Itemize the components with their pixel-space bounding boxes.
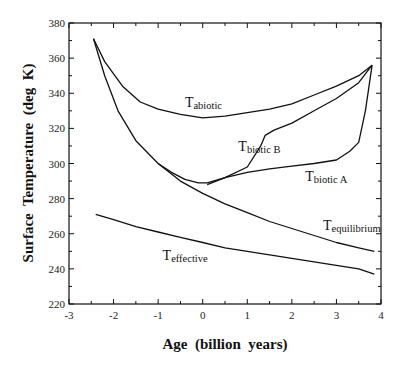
label-t-biotic-b: Tbiotic B bbox=[238, 139, 280, 155]
plot-border bbox=[69, 23, 381, 304]
x-tick-label: -3 bbox=[64, 309, 74, 321]
x-tick-label: 4 bbox=[378, 309, 384, 321]
label-t-equilibrium: Tequilibrium bbox=[323, 218, 381, 234]
y-axis-title: Surface Temperature (deg K) bbox=[20, 64, 37, 263]
x-axis-title: Age (billion years) bbox=[163, 336, 288, 353]
y-tick-label: 320 bbox=[49, 122, 66, 134]
x-tick-label: -1 bbox=[154, 309, 163, 321]
y-tick-label: 380 bbox=[49, 17, 66, 29]
y-tick-label: 260 bbox=[49, 228, 66, 240]
x-tick-label: 1 bbox=[245, 309, 251, 321]
y-tick-label: 220 bbox=[49, 298, 66, 310]
y-tick-label: 340 bbox=[49, 87, 66, 99]
y-tick-label: 300 bbox=[49, 158, 66, 170]
curve-t-abiotic bbox=[94, 39, 373, 118]
curve-t-biotic-a bbox=[158, 65, 372, 183]
curve-t-equilibrium bbox=[94, 39, 375, 252]
x-tick-label: -2 bbox=[109, 309, 118, 321]
plot-frame bbox=[69, 23, 381, 304]
label-t-biotic-a: Tbiotic A bbox=[305, 169, 348, 185]
axis-ticks: -3-2-101234220240260280300320340360380 bbox=[49, 17, 385, 321]
label-t-abiotic: Tabiotic bbox=[185, 95, 222, 111]
chart: -3-2-101234220240260280300320340360380 T… bbox=[0, 0, 405, 373]
y-tick-label: 280 bbox=[49, 193, 66, 205]
x-tick-label: 2 bbox=[289, 309, 295, 321]
label-t-effective: Teffective bbox=[163, 248, 208, 264]
y-tick-label: 240 bbox=[49, 263, 66, 275]
data-curves bbox=[94, 39, 375, 274]
x-tick-label: 3 bbox=[334, 309, 340, 321]
y-tick-label: 360 bbox=[49, 52, 66, 64]
series-labels: TabioticTbiotic BTbiotic ATequilibriumTe… bbox=[163, 95, 381, 264]
x-tick-label: 0 bbox=[200, 309, 206, 321]
